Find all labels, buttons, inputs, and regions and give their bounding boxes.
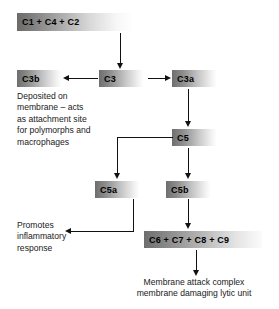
node-c3-label: C3 [104, 74, 116, 84]
arrowhead-c5b-to-c6c9 [185, 223, 191, 229]
annotation-c3b-note: Deposited on membrane – acts as attachme… [17, 91, 117, 148]
connector-c6c9-to-mac-note [196, 250, 197, 272]
arrowhead-c6c9-to-mac-note [193, 270, 199, 276]
arrowhead-c5-to-c5a [114, 173, 120, 179]
node-c6-c7-c8-c9: C6 + C7 + C8 + C9 [144, 231, 262, 248]
annotation-mac-note: Membrane attack complex membrane damagin… [110, 277, 278, 300]
node-c5b-label: C5b [171, 185, 189, 195]
node-c3b: C3b [17, 70, 61, 87]
arrowhead-c5-to-c5b [185, 173, 191, 179]
connector-c5a-to-note-horizontal [71, 231, 134, 232]
connector-c3a-to-c5 [188, 89, 189, 123]
node-c5a-label: C5a [100, 185, 117, 195]
node-c6-c7-c8-c9-label: C6 + C7 + C8 + C9 [149, 235, 229, 245]
complement-cascade-diagram: C1 + C4 + C2 C3b C3 C3a Deposited on mem… [0, 0, 279, 309]
connector-c5-to-c5a-horizontal [117, 137, 173, 138]
node-c3b-label: C3b [22, 74, 40, 84]
connector-c3-to-c3a [148, 78, 165, 79]
arrowhead-c3-to-c3a [165, 75, 171, 81]
connector-c5-to-c5a-vertical [117, 137, 118, 175]
node-c1-c4-c2-label: C1 + C4 + C2 [22, 17, 79, 27]
node-c3a: C3a [172, 70, 216, 87]
connector-c5-to-c5b [188, 148, 189, 175]
connector-c5a-to-note-vertical [133, 199, 134, 232]
connector-c5b-to-c6c9 [188, 199, 189, 225]
arrowhead-c3a-to-c5 [185, 121, 191, 127]
node-c5b: C5b [166, 181, 210, 198]
connector-c3-to-c3b [69, 78, 98, 79]
connector-c1c4c2-to-c3 [120, 33, 121, 65]
annotation-c5a-note: Promotes inflammatory response [17, 220, 77, 254]
node-c1-c4-c2: C1 + C4 + C2 [17, 13, 134, 31]
arrowhead-c3-to-c3b [63, 75, 69, 81]
arrowhead-c1c4c2-to-c3 [117, 63, 123, 69]
node-c3: C3 [99, 70, 143, 87]
node-c5a: C5a [95, 181, 139, 198]
node-c3a-label: C3a [177, 74, 194, 84]
node-c5-label: C5 [177, 133, 189, 143]
node-c5: C5 [172, 129, 216, 146]
